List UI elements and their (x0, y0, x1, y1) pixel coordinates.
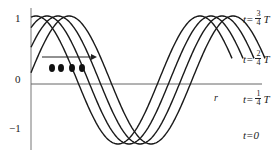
y-tick-0: 0 (15, 73, 21, 85)
label-value: 0 (253, 129, 259, 141)
arrow-head-icon (91, 54, 97, 60)
denominator: 4 (256, 99, 260, 107)
wave-curves (31, 16, 265, 144)
label-prefix: t= (243, 129, 253, 141)
label-prefix: t= (243, 53, 253, 65)
denominator: 4 (256, 19, 260, 27)
particle-dot (58, 64, 64, 72)
fraction: 24 (255, 50, 261, 67)
y-tick-1: 1 (15, 12, 21, 24)
label-t-1-4T: t= 14 T (243, 90, 270, 107)
denominator: 4 (256, 59, 260, 67)
wave-plot (0, 0, 280, 155)
particle-dot (69, 64, 75, 72)
wave-curve (31, 16, 243, 144)
fraction: 34 (255, 10, 261, 27)
wave-curve (31, 16, 265, 144)
label-t-2-4T: t= 24 T (243, 50, 270, 67)
x-axis-label: r (214, 92, 218, 103)
label-t-0: t= 0 (243, 129, 259, 141)
particle-dot (79, 64, 85, 72)
label-prefix: t= (243, 13, 253, 25)
label-suffix: T (263, 93, 269, 105)
label-suffix: T (263, 13, 269, 25)
fraction: 14 (255, 90, 261, 107)
label-t-3-4T: t= 34 T (243, 10, 270, 27)
y-tick-minus-1: −1 (9, 122, 21, 134)
label-prefix: t= (243, 93, 253, 105)
wave-diagram: 1 0 −1 r t= 34 T t= 24 T t= 14 T t= 0 (0, 0, 280, 155)
particle-dot (49, 64, 55, 72)
label-suffix: T (263, 53, 269, 65)
